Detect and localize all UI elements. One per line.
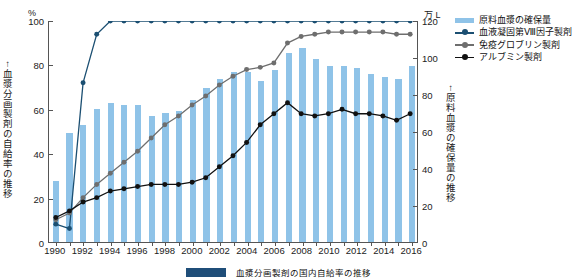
axis-tick-mark (289, 242, 290, 246)
axis-tick-mark (413, 95, 417, 96)
axis-tick-mark (316, 242, 317, 246)
axis-tick-mark (49, 154, 53, 155)
axis-tick-mark (152, 242, 153, 246)
axis-tick-mark (220, 242, 221, 246)
plot-area (48, 21, 418, 243)
legend-item: アルブミン製剤 (455, 51, 572, 63)
axis-tick-mark (70, 242, 71, 246)
axis-tick-label: 80 (422, 90, 433, 101)
axis-tick-label: 0 (422, 238, 427, 249)
axis-tick-label: 1992 (72, 245, 93, 256)
axis-tick-mark (49, 110, 53, 111)
axis-tick-mark (165, 242, 166, 246)
axis-tick-label: 100 (28, 16, 44, 27)
legend-bar-swatch-icon (455, 14, 474, 26)
axis-tick-mark (344, 242, 345, 246)
axis-tick-label: 1996 (126, 245, 147, 256)
axis-tick-mark (385, 242, 386, 246)
axis-tick-label: 2006 (264, 245, 285, 256)
axis-tick-label: 100 (422, 53, 438, 64)
legend-item: 原料血漿の確保量 (455, 14, 572, 26)
axis-tick-mark (248, 242, 249, 246)
axis-tick-mark (207, 242, 208, 246)
legend-item: 血液凝固第Ⅷ因子製剤 (455, 26, 572, 38)
legend-item: 免疫グロブリン製剤 (455, 39, 572, 51)
axis-tick-mark (179, 242, 180, 246)
legend: 原料血漿の確保量血液凝固第Ⅷ因子製剤免疫グロブリン製剤アルブミン製剤 (455, 14, 572, 64)
axis-tick-mark (371, 242, 372, 246)
legend-line-marker-icon (455, 27, 474, 39)
axis-tick-label: 120 (422, 16, 438, 27)
axis-tick-mark (330, 242, 331, 246)
axis-tick-label: 1994 (99, 245, 120, 256)
axis-tick-label: 60 (33, 104, 44, 115)
axis-tick-label: 2004 (236, 245, 257, 256)
axis-tick-label: 2008 (291, 245, 312, 256)
axis-tick-mark (83, 242, 84, 246)
legend-item-label: 免疫グロブリン製剤 (479, 39, 560, 51)
legend-line-marker-icon (455, 51, 474, 63)
axis-tick-label: 60 (422, 127, 433, 138)
axis-tick-mark (261, 242, 262, 246)
axis-tick-mark (56, 242, 57, 246)
axis-tick-label: 40 (33, 149, 44, 160)
axis-tick-label: 2016 (401, 245, 422, 256)
axis-tick-label: 1990 (44, 245, 65, 256)
axis-tick-mark (412, 242, 413, 246)
axis-tick-mark (111, 242, 112, 246)
legend-item-label: 原料血漿の確保量 (479, 14, 551, 26)
axis-tick-mark (124, 242, 125, 246)
axis-tick-mark (49, 199, 53, 200)
axis-tick-mark (398, 242, 399, 246)
axis-tick-mark (357, 242, 358, 246)
axis-tick-mark (275, 242, 276, 246)
axis-tick-layer (49, 21, 417, 242)
axis-tick-label: 2002 (209, 245, 230, 256)
caption-text: 血漿分画製剤の国内自給率の推移 (236, 266, 371, 278)
axis-tick-label: 40 (422, 164, 433, 175)
left-axis-tick-labels: 020406080100 (12, 21, 44, 243)
axis-tick-mark (97, 242, 98, 246)
axis-tick-mark (413, 132, 417, 133)
axis-tick-label: 20 (422, 201, 433, 212)
figure-caption: 血漿分画製剤の国内自給率の推移 (186, 266, 371, 278)
caption-chip (186, 268, 226, 277)
right-axis-tick-labels: 020406080100120 (422, 21, 452, 243)
axis-tick-label: 80 (33, 60, 44, 71)
axis-tick-mark (234, 242, 235, 246)
axis-tick-mark (413, 58, 417, 59)
axis-tick-label: 20 (33, 193, 44, 204)
axis-tick-mark (49, 21, 53, 22)
axis-tick-mark (413, 169, 417, 170)
x-axis-tick-labels: 1990199219941996199820002002200420062008… (48, 245, 418, 259)
axis-tick-label: 2014 (373, 245, 394, 256)
axis-tick-mark (138, 242, 139, 246)
axis-tick-label: 2000 (181, 245, 202, 256)
axis-tick-mark (413, 206, 417, 207)
axis-tick-mark (413, 21, 417, 22)
axis-tick-mark (303, 242, 304, 246)
axis-tick-label: 1998 (154, 245, 175, 256)
axis-tick-label: 2012 (346, 245, 367, 256)
legend-line-marker-icon (455, 39, 474, 51)
axis-tick-label: 2010 (318, 245, 339, 256)
axis-tick-mark (193, 242, 194, 246)
legend-item-label: 血液凝固第Ⅷ因子製剤 (479, 26, 572, 38)
axis-tick-mark (49, 65, 53, 66)
legend-item-label: アルブミン製剤 (479, 51, 542, 63)
axis-tick-label: 0 (39, 238, 44, 249)
